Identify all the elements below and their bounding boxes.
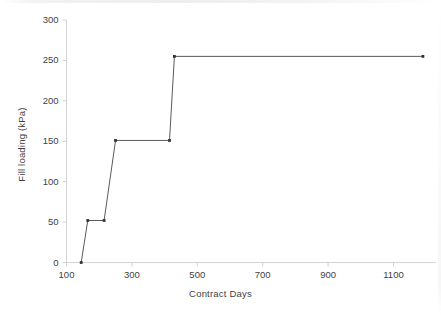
data-point-marker [103,219,106,222]
data-point-marker [86,219,89,222]
data-point-marker [80,261,83,264]
x-tick-label: 900 [303,269,353,280]
data-point-marker [422,55,425,58]
x-tick-label: 500 [172,269,222,280]
x-tick-label: 700 [238,269,288,280]
y-tick-label: 300 [21,14,59,25]
y-tick-label: 250 [21,54,59,65]
x-tick-label: 300 [107,269,157,280]
data-point-marker [114,139,117,142]
data-point-marker [173,55,176,58]
y-axis-title: Fill loading (kPa) [16,80,27,210]
series-line-fill-loading [81,56,423,262]
x-axis-title: Contract Days [0,288,441,299]
x-tick-label: 100 [42,269,92,280]
y-axis-ticks [63,20,67,263]
chart-figure: 050100150200250300 1003005007009001100 C… [0,0,441,316]
series-markers-fill-loading [80,55,425,264]
y-tick-label: 50 [21,216,59,227]
data-point-marker [168,139,171,142]
y-tick-label: 0 [21,257,59,268]
x-tick-label: 1100 [368,269,418,280]
x-axis-ticks [67,263,394,267]
